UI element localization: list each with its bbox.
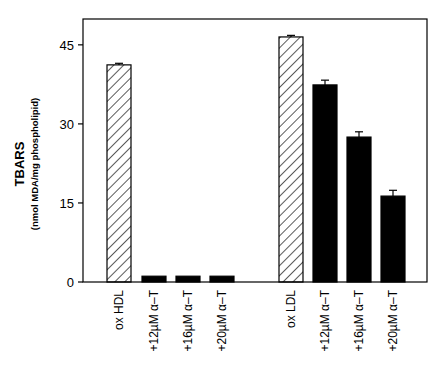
bar — [313, 85, 337, 282]
y-axis-title: TBARS (nmol MDA/mg phospholipid) — [12, 98, 40, 230]
bar — [210, 276, 234, 282]
y-tick-label: 45 — [60, 38, 74, 53]
x-tick-label: ox HDL — [112, 290, 126, 330]
bar — [347, 137, 371, 282]
x-axis-labels: ox HDL+12µM α–T+16µM α–T+20µM α–Tox LDL+… — [112, 289, 400, 351]
bar — [107, 65, 131, 282]
bar — [176, 276, 200, 282]
bar-chart: 0153045 ox HDL+12µM α–T+16µM α–T+20µM α–… — [0, 0, 444, 365]
y-axis-label: TBARS — [12, 141, 27, 186]
bar — [381, 196, 405, 282]
x-tick-label: +16µM α–T — [352, 289, 366, 351]
y-axis-sublabel: (nmol MDA/mg phospholipid) — [29, 98, 40, 230]
bars — [107, 35, 405, 282]
x-tick-label: +12µM α–T — [147, 289, 161, 351]
bar — [279, 37, 303, 282]
y-tick-label: 0 — [67, 275, 74, 290]
x-tick-label: +20µM α–T — [215, 289, 229, 351]
plot-frame — [83, 19, 427, 282]
x-tick-label: ox LDL — [284, 290, 298, 328]
x-tick-label: +16µM α–T — [181, 289, 195, 351]
bar — [142, 276, 166, 282]
y-tick-label: 30 — [60, 117, 74, 132]
x-tick-label: +20µM α–T — [386, 289, 400, 351]
y-tick-label: 15 — [60, 196, 74, 211]
y-axis: 0153045 — [60, 38, 83, 290]
x-tick-label: +12µM α–T — [318, 289, 332, 351]
